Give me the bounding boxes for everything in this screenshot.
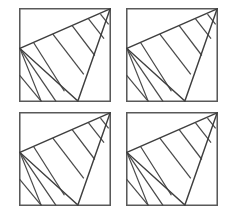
figure-grid	[0, 0, 236, 218]
panel-top-left	[19, 8, 111, 102]
panel-border	[20, 113, 111, 205]
panel-border	[20, 9, 111, 101]
panel-top-right	[126, 8, 218, 102]
panel-border	[127, 9, 218, 101]
panel-border	[127, 113, 218, 205]
panel-bottom-right	[126, 112, 218, 206]
panel-bottom-left	[19, 112, 111, 206]
